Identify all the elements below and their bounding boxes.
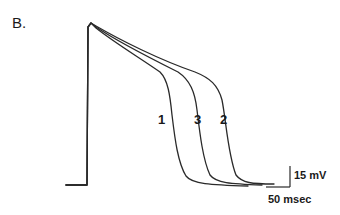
action-potential-plot xyxy=(0,0,340,215)
curve-label-3: 3 xyxy=(194,112,201,127)
trace-2 xyxy=(66,23,274,185)
curve-label-2: 2 xyxy=(220,112,227,127)
voltage-scale-label: 15 mV xyxy=(294,169,326,181)
curve-label-1: 1 xyxy=(158,112,165,127)
time-scale-label: 50 msec xyxy=(268,193,311,205)
trace-1 xyxy=(66,23,248,186)
trace-3 xyxy=(66,23,262,185)
